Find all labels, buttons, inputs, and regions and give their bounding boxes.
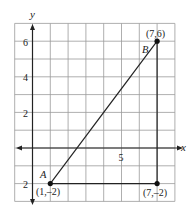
point-a-name: A [39,169,47,180]
x-axis-label: x [180,141,186,153]
y-tick-4: 4 [23,72,28,83]
point-c-coords: (7,–2) [143,187,167,199]
point-b-coords: (7,6) [146,28,165,40]
y-tick-2: 2 [23,108,28,119]
x-axis-left-arrow-icon [16,146,22,151]
x-tick-5: 5 [119,152,124,163]
point-a-coords: (1,–2) [36,186,60,198]
point-b [155,39,160,44]
point-b-name: B [142,44,149,55]
y-tick-6: 6 [23,37,28,48]
y-axis-up-arrow-icon [30,24,35,30]
point-c [155,181,160,186]
y-axis-down-arrow-icon [30,199,35,205]
y-axis-label: y [29,8,35,20]
y-tick-neg2: 2 [23,179,28,190]
coordinate-plane: y x 6 4 2 2 5 A (1,–2) B (7,6) (7,–2) [0,0,192,215]
